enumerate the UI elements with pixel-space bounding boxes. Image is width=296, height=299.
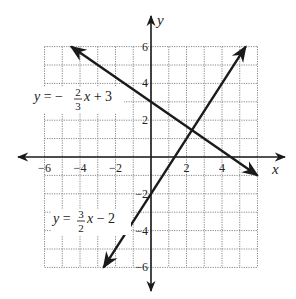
y-tick-label: 4 <box>142 76 148 90</box>
y-tick-label: −4 <box>135 224 148 238</box>
x-tick-label: −4 <box>74 161 87 175</box>
equation-label-2: y = 32x − 2 <box>51 208 131 235</box>
equation-suffix: x + 3 <box>83 89 112 104</box>
y-tick-label: 6 <box>142 40 148 54</box>
equation-label-1: y = −23x + 3 <box>32 86 124 113</box>
x-tick-label: 2 <box>184 161 190 175</box>
x-tick-label: −2 <box>109 161 122 175</box>
y-axis-label: y <box>155 12 164 28</box>
coordinate-plane: xy −6−4−224642−2−4−6 y = −23x + 3y = 32x… <box>0 0 296 299</box>
y-tick-label: 2 <box>142 113 148 127</box>
x-tick-label: 4 <box>219 161 225 175</box>
y-tick-label: −2 <box>135 187 148 201</box>
fraction-numerator: 2 <box>75 86 81 98</box>
x-tick-label: −6 <box>38 161 51 175</box>
equation-prefix: y = <box>51 211 71 226</box>
axes: xy <box>18 12 285 291</box>
x-axis-label: x <box>271 161 279 177</box>
y-tick-label: −6 <box>135 260 148 274</box>
fraction-denominator: 3 <box>75 100 81 112</box>
fraction-numerator: 3 <box>78 208 84 220</box>
equation-suffix: x − 2 <box>86 211 115 226</box>
equation-prefix: y = − <box>32 89 63 104</box>
fraction-denominator: 2 <box>78 222 84 234</box>
